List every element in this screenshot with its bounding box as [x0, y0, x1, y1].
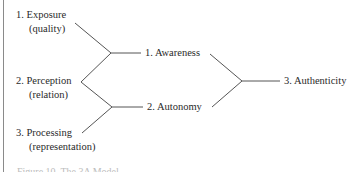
node-authenticity: 3. Authenticity: [284, 75, 346, 87]
node-autonomy: 2. Autonomy: [147, 101, 202, 113]
node-processing: 3. Processing: [16, 127, 72, 139]
node-processing-sub: (representation): [29, 141, 95, 153]
node-perception-sub: (relation): [29, 89, 68, 101]
node-perception: 2. Perception: [16, 75, 71, 87]
figure-caption: Figure 10. The 3A Model: [17, 166, 119, 172]
node-exposure-sub: (quality): [29, 23, 65, 35]
node-awareness: 1. Awareness: [145, 47, 200, 59]
node-exposure: 1. Exposure: [16, 9, 66, 21]
